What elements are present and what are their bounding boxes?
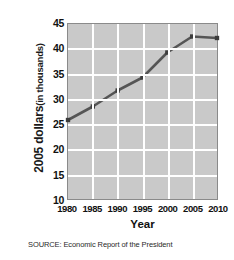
gridline-vertical <box>168 24 170 199</box>
data-point-marker <box>215 36 219 40</box>
y-tick-label: 45 <box>42 18 64 28</box>
y-tick-label: 35 <box>42 69 64 79</box>
y-tick-label: 20 <box>42 144 64 154</box>
plot-area <box>67 23 218 200</box>
data-point-marker <box>66 118 70 122</box>
y-axis-tick-labels: 1015202530354045 <box>40 23 64 200</box>
y-tick-label: 40 <box>42 43 64 53</box>
gridline-vertical <box>193 24 195 199</box>
y-tick-label: 25 <box>42 119 64 129</box>
x-axis-tick-labels: 1980198519901995200020052010 <box>67 203 218 217</box>
source-note: SOURCE: Economic Report of the President <box>28 240 228 250</box>
gridline-vertical <box>92 24 94 199</box>
x-axis-title: Year <box>67 218 218 230</box>
y-tick-label: 30 <box>42 94 64 104</box>
x-tick-label: 2010 <box>201 203 234 215</box>
gridline-vertical <box>117 24 119 199</box>
gridline-vertical <box>143 24 145 199</box>
y-tick-label: 15 <box>42 170 64 180</box>
chart-figure: 2005 dollars(in thousands) 1015202530354… <box>0 0 234 260</box>
